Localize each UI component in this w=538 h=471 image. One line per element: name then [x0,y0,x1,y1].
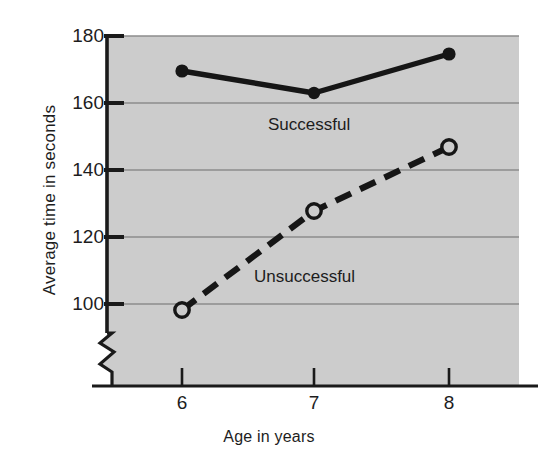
x-tick-label-7: 7 [294,392,334,414]
y-tick-label-180: 180 [42,26,104,45]
x-tick-label-8: 8 [429,392,469,414]
series-successful-point-6 [175,64,188,77]
x-tick-label-6: 6 [162,392,202,414]
series-label-successful: Successful [268,115,350,135]
series-successful-point-8 [442,47,455,60]
series-unsuccessful-point-7 [307,204,321,218]
series-label-unsuccessful: Unsuccessful [254,267,355,287]
series-unsuccessful-point-6 [175,303,189,317]
series-successful-point-7 [308,87,320,99]
series-unsuccessful-point-8 [442,140,456,154]
chart-figure: 180 160 140 120 100 6 7 8 Average time i… [0,0,538,471]
x-axis-title: Age in years [0,428,538,446]
y-axis-title: Average time in seconds [40,50,60,350]
